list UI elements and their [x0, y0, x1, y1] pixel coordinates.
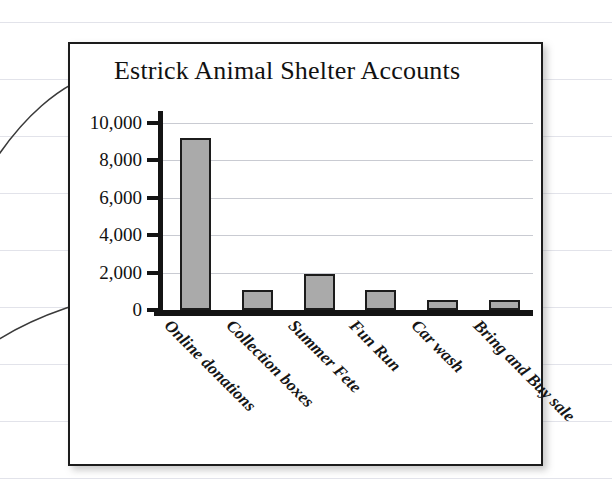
y-axis-tick-label: 10,000: [90, 112, 142, 134]
y-axis-tick-label: 0: [133, 299, 143, 321]
gridline: [163, 235, 533, 236]
y-axis-tick: [147, 158, 160, 162]
bar: [489, 300, 520, 310]
gridline: [163, 273, 533, 274]
x-axis-labels: Online donationsCollection boxesSummer F…: [163, 316, 563, 466]
gridline: [163, 123, 533, 124]
paper-rule: [0, 22, 612, 23]
y-axis-tick-label: 6,000: [99, 187, 142, 209]
y-axis-tick: [147, 233, 160, 237]
y-axis-tick-label: 2,000: [99, 262, 142, 284]
y-axis-line: [158, 111, 163, 312]
y-axis-tick: [147, 308, 160, 312]
chart-frame: Estrick Animal Shelter Accounts 02,0004,…: [68, 42, 543, 466]
paper-rule: [0, 478, 612, 479]
gridline: [163, 198, 533, 199]
y-axis-tick: [147, 196, 160, 200]
y-axis-tick-label: 4,000: [99, 224, 142, 246]
bar: [242, 290, 273, 310]
x-axis-label: Car wash: [407, 316, 468, 377]
y-axis-tick-label: 8,000: [99, 149, 142, 171]
bar: [365, 290, 396, 310]
y-axis-tick: [147, 121, 160, 125]
bar: [304, 274, 335, 310]
gridline: [163, 160, 533, 161]
x-axis-label: Fun Run: [345, 316, 405, 376]
plot-area: 02,0004,0006,0008,00010,000: [163, 123, 533, 310]
bar: [427, 300, 458, 310]
y-axis-tick: [147, 271, 160, 275]
chart-title: Estrick Animal Shelter Accounts: [114, 56, 460, 86]
bar: [180, 138, 211, 310]
x-axis-label: Bring and Buy sale: [469, 316, 579, 426]
